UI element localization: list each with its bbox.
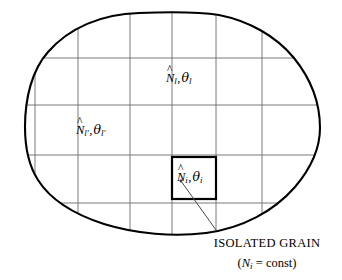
label-cell-l-prime: ^Nl′,θl′: [76, 124, 105, 138]
theta-symbol: θ: [181, 70, 189, 85]
theta-subscript: l′: [101, 128, 105, 138]
label-cell-l: ^Nl,θl: [166, 72, 192, 86]
n-symbol: N: [242, 256, 250, 270]
caption-constant-condition: (Ni = const): [205, 256, 329, 271]
hat-accent-icon: ^: [178, 163, 183, 175]
hat-accent-icon: ^: [167, 64, 172, 76]
n-hat-symbol: ^N: [76, 124, 84, 137]
paren-close: ): [292, 256, 296, 270]
theta-symbol: θ: [192, 169, 200, 184]
leader-line: [181, 181, 216, 230]
grain-aggregate-outline: [25, 12, 320, 235]
isolated-grain-figure: ^Nl,θl ^Nl′,θl′ ^Ni,θi ISOLATED GRAIN (N…: [0, 0, 342, 280]
hat-accent-icon: ^: [77, 116, 82, 128]
theta-subscript: i: [200, 175, 203, 185]
theta-symbol: θ: [93, 122, 101, 137]
label-isolated-grain: ^Ni,θi: [177, 171, 203, 185]
theta-subscript: l: [189, 76, 192, 86]
equals-sign: =: [253, 256, 266, 270]
n-hat-symbol: ^N: [177, 171, 185, 184]
caption-isolated-grain: ISOLATED GRAIN: [205, 236, 329, 251]
const-value: const: [266, 256, 292, 270]
n-hat-symbol: ^N: [166, 72, 174, 85]
